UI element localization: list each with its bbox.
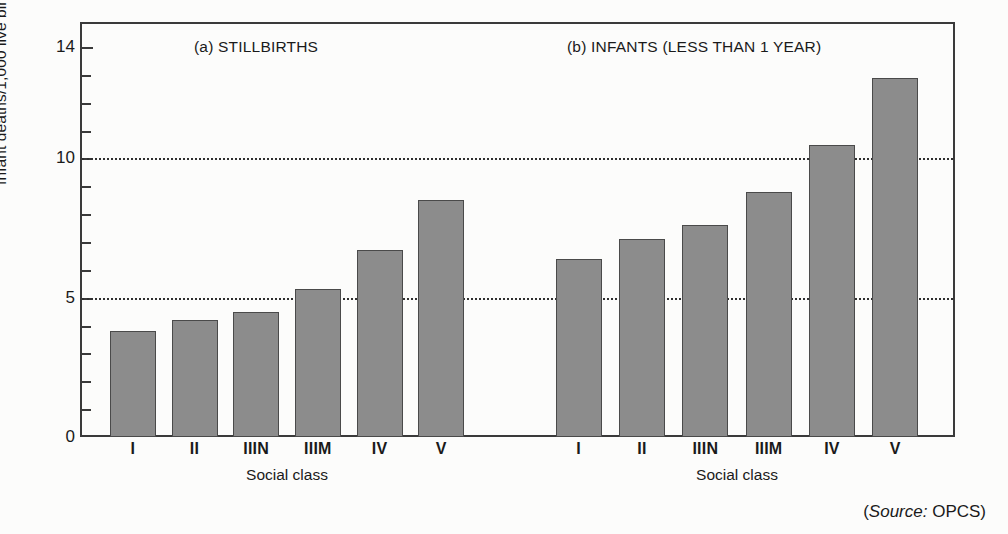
x-tick-label: V [864, 440, 927, 464]
bar[interactable] [872, 78, 918, 437]
panel-a-bars [102, 22, 472, 437]
y-tick-label: 5 [33, 289, 75, 306]
x-tick-label: V [410, 440, 472, 464]
panel-stillbirths: (a) STILLBIRTHS [82, 22, 482, 437]
bar-slot [164, 22, 226, 437]
y-tick-label: 0 [33, 428, 75, 445]
bar[interactable] [110, 331, 156, 437]
source-note: (Source: OPCS) [863, 502, 986, 522]
x-tick-label: I [102, 440, 164, 464]
panel-b-x-axis-title: Social class [547, 466, 927, 484]
bar-slot [349, 22, 411, 437]
bar-slot [610, 22, 673, 437]
y-tick-label: 14 [33, 38, 75, 55]
bar[interactable] [233, 312, 279, 437]
bar[interactable] [418, 200, 464, 437]
x-tick-label: IIIM [737, 440, 800, 464]
y-axis-title: Infant deaths/1,000 live births [0, 0, 10, 185]
figure-canvas: Infant deaths/1,000 live births 051014 (… [0, 0, 1008, 534]
x-tick-label: IV [800, 440, 863, 464]
bar[interactable] [746, 192, 792, 437]
bar[interactable] [809, 145, 855, 437]
bar[interactable] [619, 239, 665, 437]
bar[interactable] [556, 259, 602, 437]
panel-b-x-tick-labels: IIIIIINIIIMIVV [547, 440, 927, 464]
bar-slot [410, 22, 472, 437]
panel-a-x-axis-title: Social class [102, 466, 472, 484]
bar-slot [800, 22, 863, 437]
bar-slot [547, 22, 610, 437]
bar-slot [737, 22, 800, 437]
x-tick-label: II [164, 440, 226, 464]
x-tick-label: I [547, 440, 610, 464]
bar-slot [102, 22, 164, 437]
source-label: Source: [869, 502, 928, 521]
x-tick-label: IIIM [287, 440, 349, 464]
bar[interactable] [172, 320, 218, 437]
bar-slot [674, 22, 737, 437]
x-tick-label: IV [349, 440, 411, 464]
bar[interactable] [357, 250, 403, 437]
bar[interactable] [682, 225, 728, 437]
panel-infants: (b) INFANTS (LESS THAN 1 YEAR) [497, 22, 953, 437]
panel-b-bars [547, 22, 927, 437]
y-tick-label: 10 [33, 149, 75, 166]
source-value: OPCS) [927, 502, 986, 521]
y-axis-tick-labels: 051014 [20, 0, 75, 534]
bar-slot [225, 22, 287, 437]
x-tick-label: II [610, 440, 673, 464]
bar[interactable] [295, 289, 341, 437]
bar-slot [864, 22, 927, 437]
x-tick-label: IIIN [225, 440, 287, 464]
panel-a-x-tick-labels: IIIIIINIIIMIVV [102, 440, 472, 464]
x-tick-label: IIIN [674, 440, 737, 464]
bar-slot [287, 22, 349, 437]
